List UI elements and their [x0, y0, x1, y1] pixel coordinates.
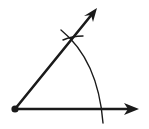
diagonal-ray: [15, 13, 93, 109]
angle-construction-diagram: [0, 0, 149, 129]
vertex-point: [11, 105, 18, 112]
